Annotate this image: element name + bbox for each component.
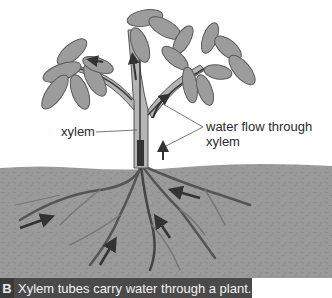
xylem-diagram: xylem water flow through xylem B Xylem t… xyxy=(0,0,332,298)
figure-caption: B Xylem tubes carry water through a plan… xyxy=(0,278,252,298)
caption-text: Xylem tubes carry water through a plant. xyxy=(18,281,251,296)
plant-illustration xyxy=(0,0,332,298)
leaves xyxy=(37,7,260,113)
soil xyxy=(0,164,332,278)
xylem-label: xylem xyxy=(61,124,95,139)
water-flow-label: water flow through xylem xyxy=(206,119,326,149)
figure-badge: B xyxy=(0,278,14,298)
